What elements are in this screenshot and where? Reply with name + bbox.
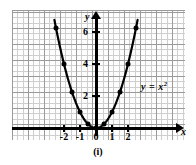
graph-figure: x y -2-1012246 y = x2 (i) xyxy=(0,0,196,165)
equation-exponent: 2 xyxy=(164,80,168,87)
curve-path xyxy=(54,20,137,128)
figure-caption: (i) xyxy=(0,146,196,157)
data-point-marker xyxy=(70,90,75,95)
data-point-marker xyxy=(110,110,115,115)
data-point-marker xyxy=(78,110,83,115)
equation-annotation: y = x2 xyxy=(141,80,167,92)
data-point-marker xyxy=(54,26,59,31)
data-point-marker xyxy=(62,62,67,67)
data-point-marker xyxy=(126,62,131,67)
data-point-marker xyxy=(118,90,123,95)
equation-text: y = x xyxy=(141,81,164,92)
data-point-marker xyxy=(134,26,139,31)
data-point-marker xyxy=(86,122,91,127)
data-point-marker xyxy=(94,126,99,131)
data-point-marker xyxy=(102,122,107,127)
